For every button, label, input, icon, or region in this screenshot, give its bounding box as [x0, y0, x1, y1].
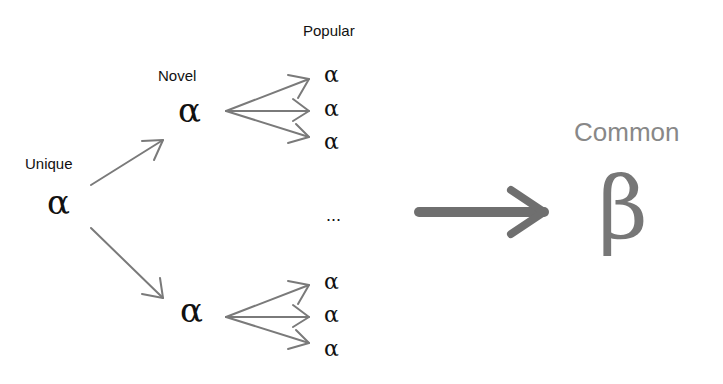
novel-top-alpha: α	[178, 93, 201, 127]
common-label: Common	[574, 117, 679, 148]
fan-arrows-top	[226, 75, 309, 143]
big-arrow-to-common	[419, 190, 544, 234]
popular-label: Popular	[303, 22, 355, 39]
ellipsis: ...	[326, 206, 341, 224]
unique-label: Unique	[25, 155, 73, 172]
popular-top-alpha-2: α	[324, 98, 339, 120]
popular-bottom-alpha-2: α	[324, 304, 339, 326]
fan-arrows-bottom	[226, 281, 309, 349]
arrow-unique-to-novel-bottom	[91, 228, 163, 298]
novel-label: Novel	[158, 67, 196, 84]
common-beta: β	[598, 165, 648, 251]
novel-bottom-alpha: α	[180, 293, 203, 327]
unique-alpha: α	[47, 185, 70, 219]
popular-bottom-alpha-3: α	[324, 338, 339, 360]
popular-bottom-alpha-1: α	[324, 271, 339, 293]
arrow-unique-to-novel-top	[91, 140, 163, 185]
popular-top-alpha-1: α	[324, 64, 339, 86]
popular-top-alpha-3: α	[324, 131, 339, 153]
